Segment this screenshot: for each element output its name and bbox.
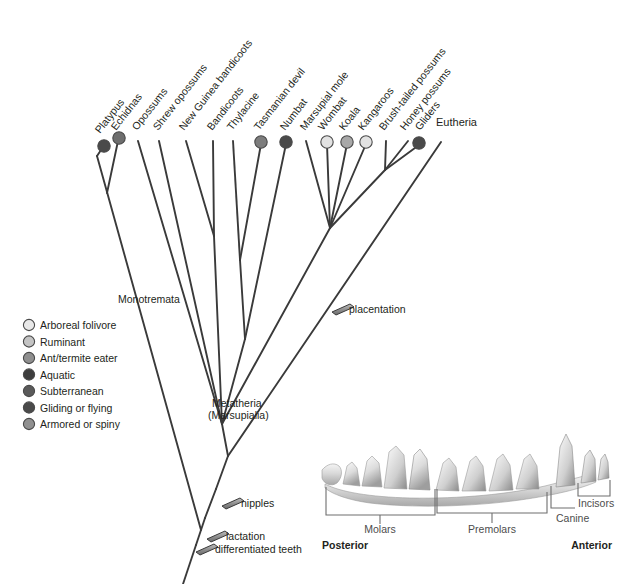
trait-node-numbat[interactable] [280,136,292,148]
legend-label-arboreal-folivore: Arboreal folivore [40,319,117,331]
character-label-differentiated-teeth: differentiated teeth [215,543,302,555]
legend-item-aquatic[interactable]: Aquatic [23,369,75,381]
legend-swatch-subterranean [23,385,34,396]
legend-swatch-armored-or-spiny [23,418,34,429]
character-label-placentation: placentation [349,303,406,315]
branch-metatheria-stem [222,424,228,456]
legend-label-ruminant: Ruminant [40,336,85,348]
character-markers: placentation nipples lactation different… [196,303,406,555]
tip-label-eutheria: Eutheria [436,116,478,128]
branch-tip-tasmanian-devil [240,144,261,260]
legend-label-aquatic: Aquatic [40,369,75,381]
legend-item-ruminant[interactable]: Ruminant [23,336,85,348]
branch-tip-thylacine [233,141,240,260]
tooth-premolar-3 [489,454,513,491]
tooth-canine [556,434,575,487]
clade-label-metatheria: Metatheria [212,397,262,409]
legend-item-armored-or-spiny[interactable]: Armored or spiny [23,418,120,430]
trait-node-wombat[interactable] [321,136,333,148]
tooth-incisor-1 [581,450,596,483]
clade-label-marsupialia: (Marsupialia) [208,409,269,421]
trait-nodes [98,132,425,152]
character-marker-lactation[interactable]: lactation [207,530,265,542]
branch-dasyuromorphia-crown [240,260,245,339]
legend-label-ant-termite-eater: Ant/termite eater [40,352,118,364]
tooth-premolar-1 [436,458,459,491]
legend-swatch-gliding-or-flying [23,402,34,413]
character-label-nipples: nipples [241,497,274,509]
character-marker-differentiated-teeth[interactable]: differentiated teeth [196,543,302,555]
tooth-premolar-2 [462,456,486,491]
branch-tip-numbat [245,144,286,339]
jaw-label-canine: Canine [556,512,589,524]
jaw-label-posterior: Posterior [322,539,368,551]
branch-tip-bandicoots [213,141,214,236]
tooth-molar-2 [362,456,382,487]
figure-root: Platypus Echidnas Opossums Shrew opossum… [0,0,632,584]
phylogenetic-tree-diagram: Platypus Echidnas Opossums Shrew opossum… [0,0,632,584]
legend-item-gliding-or-flying[interactable]: Gliding or flying [23,402,112,414]
trait-node-platypus[interactable] [98,140,110,152]
branch-to-nipples [205,489,216,518]
branch-tip-kangaroos [330,144,366,228]
legend-label-gliding-or-flying: Gliding or flying [40,402,113,414]
mandible-ramus [322,464,341,485]
legend-swatch-ant-termite-eater [23,352,34,363]
trait-node-koala[interactable] [341,136,353,148]
legend-item-arboreal-folivore[interactable]: Arboreal folivore [23,319,116,331]
branch-tip-brush-tailed-possums [385,141,386,170]
trait-node-gliders[interactable] [413,137,425,149]
tooth-molar-4 [409,449,430,490]
jaw-label-anterior: Anterior [571,539,612,551]
branch-tip-opossums [138,141,222,424]
trait-node-echidnas[interactable] [113,132,125,144]
tooth-molar-1 [343,462,360,486]
jaw-label-premolars: Premolars [468,523,516,535]
trait-node-tasmanian-devil[interactable] [255,136,267,148]
branch-theria-stem [216,456,228,489]
legend-swatch-arboreal-folivore [23,319,34,330]
branch-tip-marsupial-mole [306,141,330,228]
jaw-label-incisors: Incisors [578,497,614,509]
character-marker-placentation[interactable]: placentation [332,303,406,315]
branch-tip-new-guinea-bandicoots [186,141,214,236]
legend-item-ant-termite-eater[interactable]: Ant/termite eater [23,352,118,364]
tree-branches [97,141,441,584]
branch-tip-koala [330,144,347,228]
tooth-incisor-2 [598,454,609,480]
clade-label-monotremata: Monotremata [118,293,180,305]
branch-monotremata-stem [97,156,201,530]
legend-label-armored-or-spiny: Armored or spiny [40,418,121,430]
trait-node-kangaroos[interactable] [360,136,372,148]
character-marker-nipples[interactable]: nipples [222,497,274,509]
legend-swatch-ruminant [23,336,34,347]
legend-swatch-aquatic [23,369,34,380]
branch-phalangerida-stem [330,170,385,228]
jaw-label-molars: Molars [364,523,396,535]
legend-item-subterranean[interactable]: Subterranean [23,385,103,397]
legend-label-subterranean: Subterranean [40,385,104,397]
tip-labels: Platypus Echidnas Opossums Shrew opossum… [92,37,478,135]
branch-root-stem [183,545,196,584]
trait-legend: Arboreal folivore Ruminant Ant/termite e… [23,319,120,430]
character-label-lactation: lactation [226,530,265,542]
jaw-dentition-inset: Molars Premolars Canine Incisors Posteri… [322,434,614,551]
branch-root-to-lactation [196,518,205,545]
branch-diprotodontia-stem [222,228,330,424]
tooth-molar-3 [384,446,407,489]
tooth-premolar-4 [516,454,539,489]
